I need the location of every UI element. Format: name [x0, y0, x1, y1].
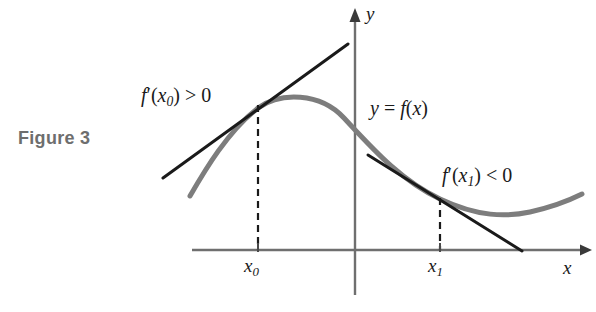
label-fn-var: x	[412, 97, 421, 119]
tick-label-x1: x1	[428, 256, 443, 275]
label-deriv0-subscript: 0	[167, 94, 174, 109]
tangent-line-at-x0	[163, 44, 348, 178]
label-fn-close-paren: )	[421, 97, 428, 119]
label-deriv1-var: x	[459, 164, 468, 186]
label-fn-y: y	[370, 97, 379, 119]
label-deriv1-open-paren: (	[452, 164, 459, 186]
label-deriv1-relation: < 0	[486, 164, 512, 186]
label-fn-equals: =	[384, 97, 395, 119]
tick-label-x1-subscript: 1	[436, 264, 442, 279]
tick-label-x0: x0	[244, 256, 259, 275]
figure-caption: Figure 3	[18, 128, 90, 149]
tick-label-x0-subscript: 0	[252, 264, 258, 279]
x-axis-arrowhead-icon	[580, 245, 592, 256]
y-axis-arrowhead-icon	[350, 8, 361, 22]
label-deriv0-open-paren: (	[151, 84, 158, 106]
label-deriv0-relation: > 0	[185, 84, 211, 106]
figure-3-container: Figure 3 f′(x0) > 0 f′(x1) < 0 y = f(x) …	[0, 0, 596, 312]
label-deriv0-close-paren: )	[173, 84, 180, 106]
x-axis-label: x	[563, 258, 571, 277]
label-deriv1-subscript: 1	[468, 174, 475, 189]
label-derivative-at-x0: f′(x0) > 0	[141, 85, 211, 105]
graph-canvas	[0, 0, 596, 312]
y-axis-label: y	[366, 4, 374, 23]
label-deriv0-var: x	[158, 84, 167, 106]
label-function-equation: y = f(x)	[370, 98, 428, 118]
label-derivative-at-x1: f′(x1) < 0	[442, 165, 512, 185]
label-deriv1-close-paren: )	[474, 164, 481, 186]
